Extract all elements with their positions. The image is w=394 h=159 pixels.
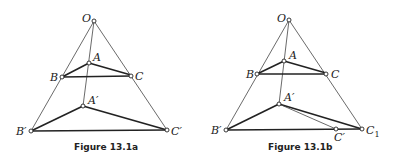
label-b: B bbox=[245, 68, 254, 81]
edge-a1c-sub1 bbox=[279, 104, 362, 129]
edge-b1c-sub1 bbox=[226, 129, 362, 130]
edge-b1a1 bbox=[226, 104, 279, 130]
edge-b1a1 bbox=[31, 106, 83, 131]
point-a-prime bbox=[277, 102, 281, 106]
label-a-prime: A′ bbox=[87, 94, 99, 107]
label-c-prime: C′ bbox=[334, 131, 345, 144]
label-a: A bbox=[288, 49, 297, 62]
point-o bbox=[287, 18, 291, 22]
figure-13-1b: O A B C A′ B′ C′ C1 Figure 13.1b bbox=[210, 12, 380, 152]
edge-b1c1 bbox=[31, 130, 167, 131]
edge-a1c1 bbox=[83, 106, 167, 130]
edge-a1c1 bbox=[279, 104, 336, 129]
label-c-sub-1-subscript: 1 bbox=[374, 130, 379, 139]
point-c bbox=[324, 72, 328, 76]
label-c-sub-1: C1 bbox=[366, 124, 380, 139]
edge-ac bbox=[89, 63, 131, 75]
label-b-prime: B′ bbox=[15, 125, 27, 138]
edge-ba bbox=[257, 61, 284, 74]
point-b-prime bbox=[29, 129, 33, 133]
label-b-prime: B′ bbox=[210, 124, 222, 137]
caption-13-1b: Figure 13.1b bbox=[268, 142, 333, 152]
label-a-prime: A′ bbox=[283, 91, 295, 104]
label-o: O bbox=[277, 12, 286, 25]
point-c-prime bbox=[165, 128, 169, 132]
point-a bbox=[87, 61, 91, 65]
figure-13-1a: O A B C A′ B′ C′ Figure 13.1a bbox=[15, 12, 182, 152]
edge-bc bbox=[62, 76, 131, 77]
point-c bbox=[129, 74, 133, 78]
point-o bbox=[92, 19, 96, 23]
point-b-prime bbox=[224, 128, 228, 132]
point-a-prime bbox=[81, 104, 85, 108]
diagram-canvas: O A B C A′ B′ C′ Figure 13.1a O A B bbox=[0, 0, 394, 159]
label-c-prime: C′ bbox=[171, 125, 182, 138]
point-c-sub-1 bbox=[360, 127, 364, 131]
edge-ac bbox=[284, 61, 326, 73]
label-a: A bbox=[92, 51, 101, 64]
label-c: C bbox=[331, 68, 340, 81]
label-o: O bbox=[82, 12, 91, 25]
label-b: B bbox=[49, 71, 58, 84]
point-b bbox=[60, 75, 64, 79]
caption-13-1a: Figure 13.1a bbox=[74, 142, 138, 152]
point-b bbox=[255, 72, 259, 76]
point-a bbox=[282, 59, 286, 63]
label-c: C bbox=[135, 70, 144, 83]
